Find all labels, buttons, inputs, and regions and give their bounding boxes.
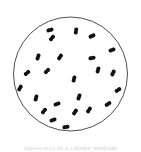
coccus-isthmus [64, 125, 68, 129]
coccus-isthmus [90, 56, 94, 60]
petri-dish-figure: diplococci in a culture medium [0, 0, 141, 152]
figure-caption-text: diplococci in a culture medium [0, 145, 141, 152]
figure-caption-strip: diplococci in a culture medium [0, 145, 141, 152]
petri-dish-illustration [0, 0, 141, 152]
coccus-isthmus [74, 29, 78, 33]
